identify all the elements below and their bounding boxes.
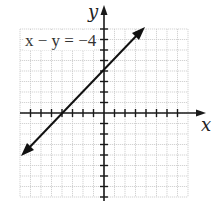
coordinate-graph: x y x − y = −4 [0, 0, 215, 219]
y-axis-label: y [87, 1, 99, 22]
y-axis-arrow-icon [101, 5, 108, 15]
x-axis-label: x [201, 114, 211, 135]
equation-label: x − y = −4 [25, 31, 97, 50]
